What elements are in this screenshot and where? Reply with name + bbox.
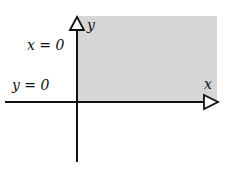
y-axis-boundary-label: x = 0 (27, 37, 64, 53)
x-axis-boundary-label: y = 0 (12, 77, 49, 93)
shaded-first-quadrant (78, 16, 217, 101)
x-axis-label: x (204, 76, 212, 92)
coordinate-plane (0, 0, 225, 188)
y-axis-label: y (87, 17, 95, 33)
